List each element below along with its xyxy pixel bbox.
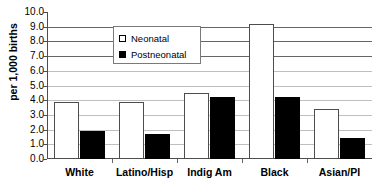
x-axis-label-black: Black bbox=[242, 166, 307, 178]
chart-legend: Neonatal Postneonatal bbox=[113, 26, 201, 64]
y-axis-tick-label: 1.0 bbox=[18, 139, 44, 149]
x-axis-label-white: White bbox=[47, 166, 112, 178]
x-axis-label-indig-am: Indig Am bbox=[177, 166, 242, 178]
y-axis-tick-label: 4.0 bbox=[18, 95, 44, 105]
category-separator-tick bbox=[112, 159, 113, 163]
open-square-icon bbox=[119, 35, 126, 42]
y-axis-tick-label: 7.0 bbox=[18, 51, 44, 61]
bar-postneonatal-asian-pi bbox=[340, 138, 365, 159]
bar-postneonatal-black bbox=[275, 97, 300, 159]
bar-chart: per 1,000 births 10.09.08.07.06.05.04.03… bbox=[0, 0, 376, 195]
y-axis-tick-label: 9.0 bbox=[18, 22, 44, 32]
bar-neonatal-latino-hisp bbox=[119, 102, 144, 159]
y-axis-tick-mark bbox=[43, 159, 47, 160]
category-separator-tick bbox=[242, 159, 243, 163]
bar-neonatal-asian-pi bbox=[314, 109, 339, 159]
y-axis-tick-label: 3.0 bbox=[18, 110, 44, 120]
y-axis-tick-labels: 10.09.08.07.06.05.04.03.02.01.00.0 bbox=[18, 7, 44, 159]
plot-area bbox=[47, 12, 372, 159]
legend-item-postneonatal: Postneonatal bbox=[119, 46, 200, 62]
y-axis-tick-label: 0.0 bbox=[18, 154, 44, 164]
x-axis-label-latino-hisp: Latino/Hisp bbox=[112, 166, 177, 178]
bars-layer bbox=[47, 12, 372, 159]
x-axis-label-asian-pi: Asian/PI bbox=[307, 166, 372, 178]
bar-neonatal-white bbox=[54, 102, 79, 159]
filled-square-icon bbox=[119, 51, 126, 58]
legend-label-neonatal: Neonatal bbox=[131, 33, 169, 44]
y-axis-tick-label: 5.0 bbox=[18, 81, 44, 91]
legend-item-neonatal: Neonatal bbox=[119, 30, 200, 46]
bar-neonatal-indig-am bbox=[184, 93, 209, 159]
x-axis-tick-labels: WhiteLatino/HispIndig AmBlackAsian/PI bbox=[47, 166, 372, 184]
y-axis-tick-label: 8.0 bbox=[18, 36, 44, 46]
category-separator-tick bbox=[177, 159, 178, 163]
y-axis-tick-label: 10.0 bbox=[18, 7, 44, 17]
bar-group bbox=[314, 12, 365, 159]
bar-neonatal-black bbox=[249, 24, 274, 159]
y-axis-tick-label: 2.0 bbox=[18, 125, 44, 135]
bar-postneonatal-latino-hisp bbox=[145, 134, 170, 159]
bar-postneonatal-indig-am bbox=[210, 97, 235, 159]
category-separator-tick bbox=[307, 159, 308, 163]
y-axis-tick-label: 6.0 bbox=[18, 66, 44, 76]
bar-postneonatal-white bbox=[80, 131, 105, 159]
bar-group bbox=[249, 12, 300, 159]
legend-label-postneonatal: Postneonatal bbox=[131, 49, 186, 60]
bar-group bbox=[54, 12, 105, 159]
